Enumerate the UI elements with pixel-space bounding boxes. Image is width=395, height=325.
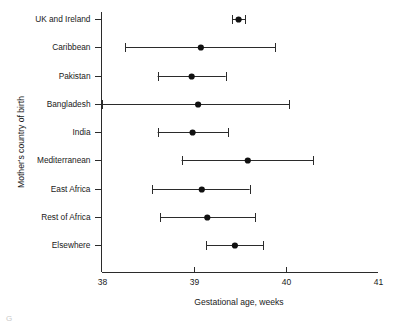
- forest-plot: 38394041 UK and IrelandCaribbeanPakistan…: [0, 0, 395, 325]
- x-tick-group: [195, 267, 287, 273]
- figure-caption-partial: G: [0, 313, 395, 325]
- category-label-mediterranean: Mediterranean: [37, 155, 91, 165]
- estimate-marker: [204, 214, 210, 220]
- data-point-bangladesh: [102, 100, 290, 109]
- category-label-pakistan: Pakistan: [59, 71, 91, 81]
- x-tick-label-40: 40: [282, 277, 292, 287]
- category-label-group: UK and IrelandCaribbeanPakistanBanglades…: [35, 14, 91, 250]
- category-label-elsewhere: Elsewhere: [52, 240, 91, 250]
- category-label-east-africa: East Africa: [51, 184, 91, 194]
- estimate-marker: [232, 242, 238, 248]
- estimate-marker: [235, 16, 241, 22]
- estimate-marker: [199, 186, 205, 192]
- category-label-india: India: [73, 127, 91, 137]
- figure-container: 38394041 UK and IrelandCaribbeanPakistan…: [0, 0, 395, 325]
- data-point-pakistan: [158, 72, 227, 81]
- estimate-marker: [195, 101, 201, 107]
- estimate-marker: [198, 44, 204, 50]
- x-tick-label-39: 39: [190, 277, 200, 287]
- y-axis-title: Mother's country of birth: [16, 96, 26, 188]
- x-tick-label-41: 41: [374, 277, 384, 287]
- category-label-bangladesh: Bangladesh: [47, 99, 91, 109]
- data-series-group: [102, 15, 314, 250]
- category-label-rest-of-africa: Rest of Africa: [41, 212, 91, 222]
- data-point-elsewhere: [206, 241, 263, 250]
- x-axis-title: Gestational age, weeks: [194, 297, 283, 307]
- x-tick-label-group: 38394041: [98, 277, 384, 287]
- category-label-caribbean: Caribbean: [52, 42, 91, 52]
- data-point-mediterranean: [182, 156, 314, 165]
- data-point-caribbean: [125, 43, 275, 52]
- data-point-east-africa: [152, 185, 250, 194]
- category-label-uk-and-ireland: UK and Ireland: [35, 14, 91, 24]
- data-point-uk-and-ireland: [232, 15, 245, 24]
- y-tick-group: [95, 20, 102, 246]
- estimate-marker: [189, 73, 195, 79]
- data-point-india: [158, 128, 229, 137]
- estimate-marker: [189, 129, 195, 135]
- data-point-rest-of-africa: [160, 213, 255, 222]
- x-tick-label-38: 38: [98, 277, 108, 287]
- estimate-marker: [245, 157, 251, 163]
- axes-group: [102, 12, 378, 273]
